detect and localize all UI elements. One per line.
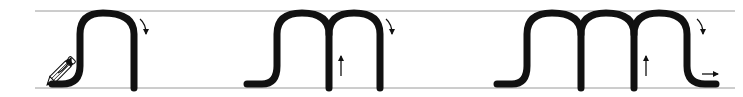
clockwise-arrow-icon (697, 19, 703, 34)
handwriting-diagram: Handwriting practice: letters n, m and t… (0, 0, 743, 97)
figure-single-hump (52, 13, 146, 88)
clockwise-arrow-icon (386, 19, 392, 34)
figure-double-hump (247, 13, 392, 88)
clockwise-arrow-icon (140, 19, 146, 34)
figure-triple-hump (497, 13, 718, 88)
